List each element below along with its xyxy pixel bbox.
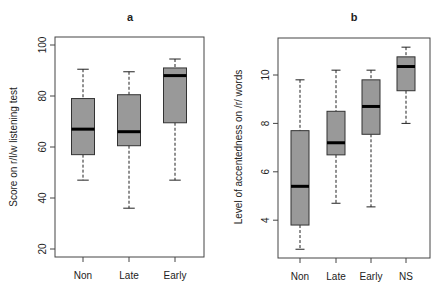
panel-a: a 20406080100 NonLateEarly Score on r/l/… bbox=[8, 11, 204, 281]
panel-b-title: b bbox=[351, 11, 358, 23]
panel-b-boxes bbox=[291, 47, 415, 249]
x-tick-label: Early bbox=[164, 270, 187, 281]
box-late bbox=[327, 70, 345, 203]
iqr-box bbox=[397, 57, 415, 91]
panel-a-y-axis: 20406080100 bbox=[37, 36, 55, 254]
y-tick-label: 6 bbox=[260, 169, 271, 175]
y-tick-label: 60 bbox=[37, 141, 48, 153]
y-tick-label: 40 bbox=[37, 192, 48, 204]
x-tick-label: Late bbox=[119, 270, 139, 281]
iqr-box bbox=[72, 99, 95, 155]
y-tick-label: 10 bbox=[260, 69, 271, 81]
x-tick-label: Non bbox=[291, 271, 309, 282]
y-tick-label: 4 bbox=[260, 217, 271, 223]
x-tick-label: Early bbox=[360, 271, 383, 282]
panel-a-title: a bbox=[127, 11, 134, 23]
x-tick-label: NS bbox=[399, 271, 413, 282]
panel-b-y-label: Level of accentedness on /r/ words bbox=[233, 70, 244, 225]
iqr-box bbox=[118, 95, 141, 146]
box-non bbox=[291, 80, 309, 249]
panel-a-boxes bbox=[72, 59, 187, 208]
x-tick-label: Non bbox=[74, 270, 92, 281]
panel-b-y-axis: 46810 bbox=[260, 69, 278, 223]
box-ns bbox=[397, 47, 415, 123]
y-tick-label: 80 bbox=[37, 90, 48, 102]
box-early bbox=[164, 59, 187, 180]
iqr-box bbox=[291, 131, 309, 225]
box-non bbox=[72, 69, 95, 180]
panel-a-y-label: Score on r/l/w listening test bbox=[8, 87, 19, 207]
box-late bbox=[118, 72, 141, 208]
x-tick-label: Late bbox=[326, 271, 346, 282]
figure-canvas: a 20406080100 NonLateEarly Score on r/l/… bbox=[0, 0, 447, 294]
box-early bbox=[362, 70, 380, 207]
y-tick-label: 20 bbox=[37, 243, 48, 255]
y-tick-label: 8 bbox=[260, 120, 271, 126]
panel-a-x-axis: NonLateEarly bbox=[74, 257, 187, 281]
panel-b: b 46810 NonLateEarlyNS Level of accented… bbox=[233, 11, 430, 282]
figure: a 20406080100 NonLateEarly Score on r/l/… bbox=[0, 0, 447, 294]
panel-b-x-axis: NonLateEarlyNS bbox=[291, 258, 413, 282]
iqr-box bbox=[327, 111, 345, 155]
y-tick-label: 100 bbox=[37, 36, 48, 53]
